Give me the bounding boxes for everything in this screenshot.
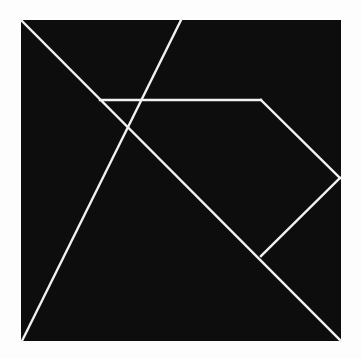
- tangram-diagram: [0, 0, 362, 358]
- tangram-figure: Tangram square dissection: [0, 0, 362, 358]
